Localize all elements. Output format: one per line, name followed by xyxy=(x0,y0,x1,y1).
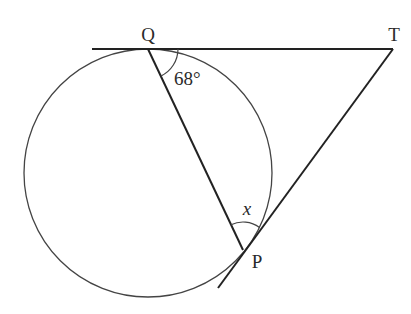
angle-label-x: x xyxy=(242,198,252,219)
angle-arc-P xyxy=(231,222,260,227)
circle xyxy=(24,49,272,297)
point-label-T: T xyxy=(388,24,400,45)
point-label-P: P xyxy=(252,251,263,272)
angle-label-68: 68° xyxy=(174,68,201,89)
diagram-canvas: Q T P 68° x xyxy=(0,0,411,314)
tangent-line-TP xyxy=(218,49,393,288)
point-label-Q: Q xyxy=(141,24,155,45)
geometry-diagram: Q T P 68° x xyxy=(0,0,411,314)
